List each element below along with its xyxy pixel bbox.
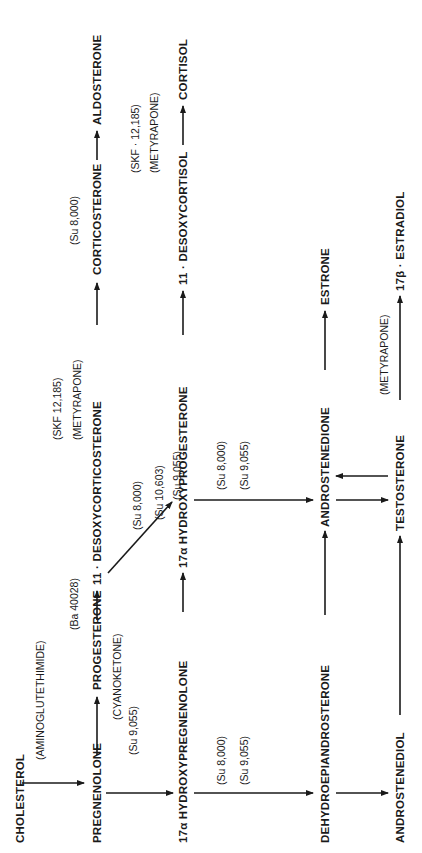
compound-17a-hydroxypregnenolone: 17α HYDROXYPREGNENOLONE	[176, 661, 190, 843]
inhibitor-aminoglutethimide: (AMINOGLUTETHIMIDE)	[34, 640, 47, 760]
compound-androstenedione: ANDROSTENEDIONE	[318, 407, 332, 527]
compound-17b-estradiol: 17β · ESTRADIOL	[393, 192, 407, 291]
compound-pregnenolone: PREGNENOLONE	[90, 743, 104, 843]
inhibitor-su8000-aldosterone: (Su 8,000)	[68, 196, 81, 245]
inhibitor-su9055-dhea: (Su 9,055)	[238, 736, 251, 785]
inhibitor-su8000-androstenedione: (Su 8,000)	[215, 441, 228, 490]
compound-dehydroepiandrosterone: DEHYDROEPIANDROSTERONE	[318, 665, 332, 843]
compound-17a-hydroxyprogesterone: 17α HYDROXYPROGESTERONE	[176, 386, 190, 568]
inhibitor-su8000-dhea: (Su 8,000)	[215, 736, 228, 785]
compound-cortisol: CORTISOL	[176, 39, 190, 100]
steroid-pathway-diagram: CHOLESTEROL (AMINOGLUTETHIMIDE) PREGNENO…	[0, 0, 422, 853]
inhibitor-skf-12185-top: (SKF 12,185)	[51, 378, 64, 440]
compound-cholesterol: CHOLESTEROL	[13, 754, 27, 843]
inhibitor-ba40028: (Ba 40028)	[68, 578, 81, 630]
compound-11-desoxycorticosterone: 11 · DESOXYCORTICOSTERONE	[90, 401, 104, 585]
inhibitor-skf-12185-mid: (SKF · 12,185)	[129, 104, 142, 173]
compound-testosterone: TESTOSTERONE	[393, 435, 407, 531]
inhibitor-metyrapone-top: (METYRAPONE)	[71, 359, 84, 440]
compound-progesterone: PROGESTERONE	[90, 590, 104, 690]
inhibitor-metyrapone-low: (METYRAPONE)	[378, 314, 391, 395]
compound-11-desoxycortisol: 11 · DESOXYCORTISOL	[176, 151, 190, 285]
compound-aldosterone: ALDOSTERONE	[90, 35, 104, 125]
inhibitor-su10603-diagonal: (Su 10,603)	[153, 465, 166, 520]
compound-corticosterone: CORTICOSTERONE	[90, 164, 104, 275]
inhibitor-su8000-diagonal: (Su 8,000)	[131, 481, 144, 530]
inhibitor-metyrapone-mid: (METYRAPONE)	[148, 92, 161, 173]
compound-androstenediol: ANDROSTENEDIOL	[393, 732, 407, 843]
inhibitor-cyanoketone: (CYANOKETONE)	[111, 633, 124, 720]
compound-estrone: ESTRONE	[318, 248, 332, 305]
inhibitor-su9055-androstenedione: (Su 9,055)	[238, 441, 251, 490]
inhibitor-su9055-pregnenolone: (Su 9,055)	[127, 706, 140, 755]
